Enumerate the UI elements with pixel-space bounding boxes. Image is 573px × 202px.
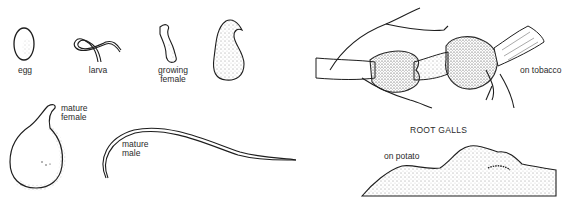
growing-female-label: growing female (152, 66, 194, 84)
mature-male-label: mature male (122, 140, 148, 158)
on-tobacco-label: on tobacco (520, 66, 562, 75)
swollen-female-drawing (214, 20, 245, 80)
growing-female-drawing (160, 25, 176, 63)
larva-label: larva (80, 66, 116, 75)
mature-female-label: mature female (61, 104, 87, 122)
larva-drawing (74, 39, 121, 62)
tobacco-root-gall-drawing (316, 8, 544, 108)
root-galls-title: ROOT GALLS (410, 126, 467, 135)
egg-label: egg (10, 66, 40, 75)
illustration-canvas (0, 0, 573, 202)
on-potato-label: on potato (384, 152, 419, 161)
mature-female-drawing (10, 105, 63, 188)
egg-drawing (14, 28, 34, 60)
